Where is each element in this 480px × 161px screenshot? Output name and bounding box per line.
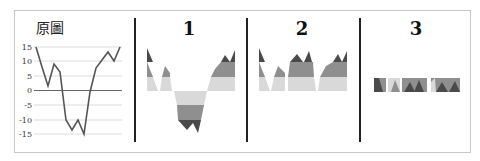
- panel-3-title: 3: [396, 18, 436, 39]
- horizon-chart-3: [374, 78, 460, 92]
- svg-text:-10: -10: [19, 116, 32, 125]
- divider-1: [134, 18, 136, 142]
- svg-text:-15: -15: [19, 130, 32, 139]
- divider-3: [359, 18, 361, 142]
- panel-2-title: 2: [282, 18, 322, 39]
- original-chart: 15 10 5 0 -5 -10 -15: [19, 43, 122, 139]
- horizon-chart-1: [147, 48, 235, 133]
- svg-text:5: 5: [27, 72, 32, 81]
- svg-text:0: 0: [27, 86, 32, 95]
- svg-text:-5: -5: [24, 101, 32, 110]
- svg-text:15: 15: [22, 43, 32, 52]
- svg-text:10: 10: [22, 57, 32, 66]
- divider-2: [246, 18, 248, 142]
- panel-1-title: 1: [169, 18, 209, 39]
- horizon-chart-2: [259, 48, 347, 91]
- y-axis-ticks: 15 10 5 0 -5 -10 -15: [19, 43, 32, 139]
